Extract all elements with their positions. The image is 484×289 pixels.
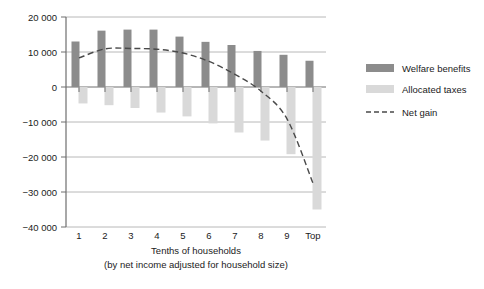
y-tick-label-20000: 20 000 [28, 12, 57, 23]
y-tick-label-0: 0 [52, 82, 57, 93]
chart-container: 20 000 10 000 0 −10 000 −20 000 −30 000 … [0, 0, 484, 289]
bar-allocated-taxes-4 [157, 87, 166, 113]
y-tick-label-minus-10000: −10 000 [22, 117, 57, 128]
x-tick-label-3: 3 [128, 230, 133, 241]
chart-svg: 20 000 10 000 0 −10 000 −20 000 −30 000 … [0, 0, 484, 289]
bar-welfare-benefits-1 [72, 42, 80, 88]
bar-allocated-taxes-1 [79, 87, 88, 103]
bar-allocated-taxes-7 [235, 87, 244, 133]
x-tick-label-6: 6 [206, 230, 211, 241]
x-tick-label-5: 5 [180, 230, 185, 241]
bar-welfare-benefits-2 [98, 31, 106, 87]
legend-label-allocated-taxes: Allocated taxes [402, 84, 467, 95]
bar-allocated-taxes-6 [209, 87, 218, 123]
x-axis-subtitle: (by net income adjusted for household si… [104, 259, 288, 270]
y-tick-label-minus-20000: −20 000 [22, 152, 57, 163]
legend-label-net-gain: Net gain [402, 107, 437, 118]
y-tick-label-minus-40000: −40 000 [22, 222, 57, 233]
x-tick-label-2: 2 [102, 230, 107, 241]
legend-swatch-welfare-benefits [366, 64, 394, 72]
bar-welfare-benefits-Top [306, 61, 314, 87]
x-tick-label-7: 7 [232, 230, 237, 241]
bar-allocated-taxes-8 [261, 87, 270, 141]
x-tick-label-9: 9 [284, 230, 289, 241]
bar-welfare-benefits-7 [228, 45, 236, 87]
bar-welfare-benefits-6 [202, 42, 210, 87]
legend-label-welfare-benefits: Welfare benefits [402, 63, 471, 74]
y-tick-label-minus-30000: −30 000 [22, 187, 57, 198]
y-tick-label-10000: 10 000 [28, 47, 57, 58]
x-tick-label-Top: Top [305, 230, 320, 241]
legend-swatch-allocated-taxes [366, 85, 394, 93]
x-tick-label-1: 1 [76, 230, 81, 241]
x-tick-label-8: 8 [258, 230, 263, 241]
bar-welfare-benefits-3 [124, 30, 132, 87]
bar-welfare-benefits-4 [150, 30, 158, 87]
bar-allocated-taxes-2 [105, 87, 114, 105]
x-axis-title: Tenths of households [151, 245, 241, 256]
bar-allocated-taxes-5 [183, 87, 192, 116]
bar-allocated-taxes-Top [313, 87, 322, 210]
bar-welfare-benefits-5 [176, 37, 184, 87]
bar-welfare-benefits-8 [254, 51, 262, 87]
x-tick-label-4: 4 [154, 230, 159, 241]
bar-welfare-benefits-9 [280, 55, 288, 87]
bar-allocated-taxes-3 [131, 87, 140, 108]
